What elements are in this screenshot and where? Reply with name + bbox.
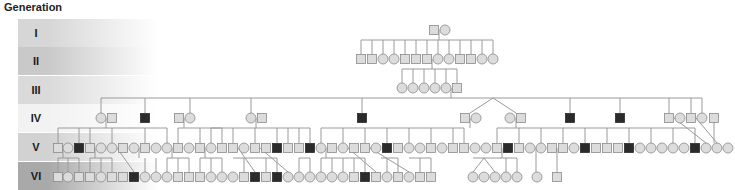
female-icon <box>433 54 443 64</box>
female-icon <box>675 113 685 123</box>
male-icon <box>548 144 557 153</box>
male-icon <box>54 144 63 153</box>
male-icon <box>75 173 84 182</box>
affected-male-icon <box>141 114 150 123</box>
affected-male-icon <box>691 144 700 153</box>
male-icon <box>54 173 63 182</box>
female-icon <box>430 83 440 93</box>
female-icon <box>481 143 491 153</box>
female-icon <box>382 172 392 182</box>
generation-row-vi <box>54 172 562 182</box>
male-icon <box>394 173 403 182</box>
female-icon <box>96 172 106 182</box>
male-icon <box>394 144 403 153</box>
female-icon <box>239 143 249 153</box>
male-icon <box>295 144 304 153</box>
female-icon <box>512 172 522 182</box>
male-icon <box>559 144 568 153</box>
female-icon <box>228 172 238 182</box>
male-icon <box>461 114 470 123</box>
female-icon <box>697 113 707 123</box>
male-icon <box>240 173 249 182</box>
female-icon <box>477 54 487 64</box>
female-icon <box>723 143 733 153</box>
female-icon <box>471 113 481 123</box>
male-icon <box>350 173 359 182</box>
female-icon <box>63 143 73 153</box>
female-icon <box>185 113 195 123</box>
male-icon <box>460 144 469 153</box>
male-icon <box>174 144 183 153</box>
affected-male-icon <box>130 173 139 182</box>
female-icon <box>525 143 535 153</box>
female-icon <box>140 172 150 182</box>
female-icon <box>371 143 381 153</box>
generation-row-iv <box>96 113 719 123</box>
affected-male-icon <box>625 144 634 153</box>
female-icon <box>206 143 216 153</box>
male-icon <box>185 173 194 182</box>
male-icon <box>368 55 377 64</box>
male-icon <box>196 173 205 182</box>
male-icon <box>350 144 359 153</box>
male-icon <box>515 144 524 153</box>
female-icon <box>470 143 480 153</box>
affected-male-icon <box>358 114 367 123</box>
male-icon <box>174 173 183 182</box>
female-icon <box>668 143 678 153</box>
female-icon <box>305 172 315 182</box>
male-icon <box>229 144 238 153</box>
female-icon <box>712 143 722 153</box>
male-icon <box>86 144 95 153</box>
male-icon <box>251 144 260 153</box>
female-icon <box>151 143 161 153</box>
male-icon <box>86 173 95 182</box>
female-icon <box>657 143 667 153</box>
male-icon <box>328 144 337 153</box>
female-icon <box>679 143 689 153</box>
male-icon <box>357 55 366 64</box>
affected-male-icon <box>273 173 282 182</box>
male-icon <box>592 144 601 153</box>
male-icon <box>218 144 227 153</box>
female-icon <box>162 172 172 182</box>
female-icon <box>246 113 256 123</box>
male-icon <box>427 144 436 153</box>
male-icon <box>372 173 381 182</box>
female-icon <box>378 54 388 64</box>
male-icon <box>284 144 293 153</box>
male-icon <box>108 114 117 123</box>
female-icon <box>389 54 399 64</box>
generation-row-i <box>430 25 451 35</box>
female-icon <box>505 113 515 123</box>
male-icon <box>262 144 271 153</box>
female-icon <box>408 83 418 93</box>
male-icon <box>119 173 128 182</box>
affected-male-icon <box>383 144 392 153</box>
female-icon <box>184 143 194 153</box>
female-icon <box>338 172 348 182</box>
female-icon <box>294 172 304 182</box>
affected-male-icon <box>251 173 260 182</box>
male-icon <box>401 55 410 64</box>
affected-male-icon <box>361 173 370 182</box>
male-icon <box>517 114 526 123</box>
male-icon <box>423 55 432 64</box>
male-icon <box>614 144 623 153</box>
male-icon <box>553 173 562 182</box>
female-icon <box>404 172 414 182</box>
affected-male-icon <box>75 144 84 153</box>
female-icon <box>488 54 498 64</box>
male-icon <box>453 84 462 93</box>
male-icon <box>119 144 128 153</box>
female-icon <box>490 172 500 182</box>
male-icon <box>467 55 476 64</box>
male-icon <box>687 114 696 123</box>
female-icon <box>701 143 711 153</box>
male-icon <box>175 114 184 123</box>
female-icon <box>419 83 429 93</box>
male-icon <box>710 114 719 123</box>
female-icon <box>397 83 407 93</box>
male-icon <box>449 144 458 153</box>
female-icon <box>468 172 478 182</box>
